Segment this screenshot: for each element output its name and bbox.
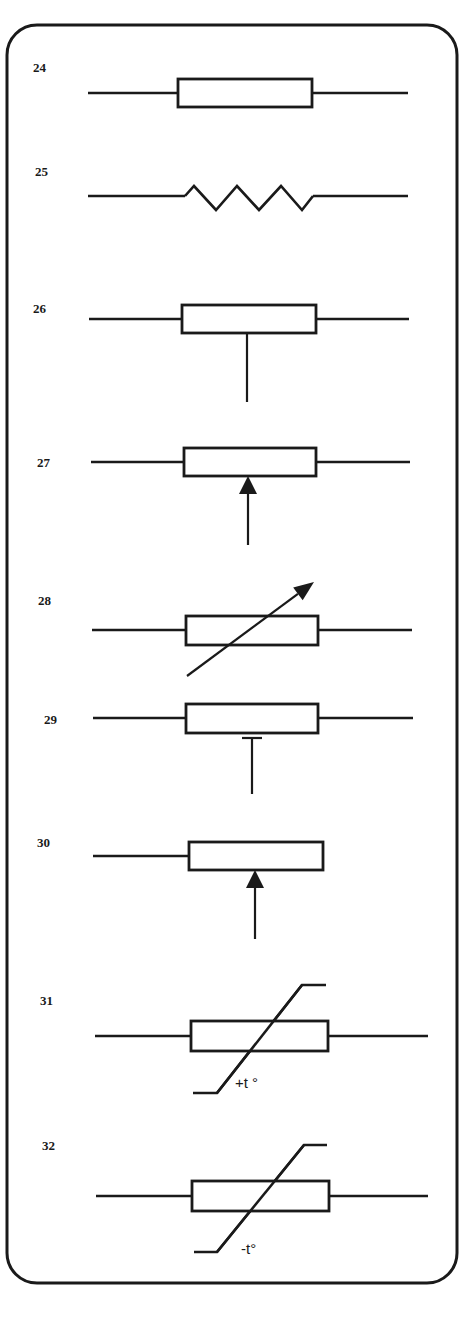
symbol-number: 28: [38, 593, 52, 608]
symbol-number: 29: [44, 712, 58, 727]
symbol-number: 25: [35, 164, 49, 179]
temperature-label: +t °: [235, 1074, 258, 1091]
symbol-number: 26: [33, 301, 47, 316]
symbol-29-preset-resistor: 29: [44, 704, 413, 794]
resistor-body-icon: [178, 79, 312, 107]
arrowhead-icon: [239, 476, 257, 494]
symbol-27-potentiometer-arrow-wiper: 27: [37, 448, 410, 545]
resistor-body-icon: [186, 704, 318, 733]
symbol-24-fixed-resistor-box: 24: [33, 60, 408, 107]
resistor-body-icon: [186, 616, 318, 645]
resistor-body-icon: [182, 305, 316, 333]
resistor-body-icon: [189, 842, 323, 870]
resistor-body-icon: [192, 1181, 329, 1211]
resistor-symbols-diagram: 2425262728293031+t °32-t°: [0, 0, 474, 1329]
symbol-30-rheostat-arrow-wiper: 30: [37, 835, 323, 939]
symbol-28-variable-resistor-arrow: 28: [38, 582, 412, 676]
symbol-number: 31: [40, 993, 53, 1008]
symbol-number: 32: [42, 1138, 55, 1153]
symbol-list: 2425262728293031+t °32-t°: [33, 60, 428, 1257]
resistor-body-icon: [184, 448, 316, 476]
symbol-number: 30: [37, 835, 50, 850]
resistor-body-icon: [191, 1021, 328, 1051]
arrowhead-icon: [246, 870, 264, 888]
symbol-25-fixed-resistor-zigzag: 25: [35, 164, 408, 210]
symbol-number: 27: [37, 455, 51, 470]
zigzag-resistor-icon: [185, 186, 313, 210]
symbol-number: 24: [33, 60, 47, 75]
symbol-31-thermistor-ptc: 31+t °: [40, 985, 428, 1093]
variable-arrowhead-icon: [293, 582, 314, 600]
symbol-32-thermistor-ntc: 32-t°: [42, 1138, 428, 1257]
temperature-label: -t°: [241, 1240, 256, 1257]
rounded-frame: [7, 25, 457, 1283]
symbol-26-resistor-with-tap: 26: [33, 301, 409, 402]
